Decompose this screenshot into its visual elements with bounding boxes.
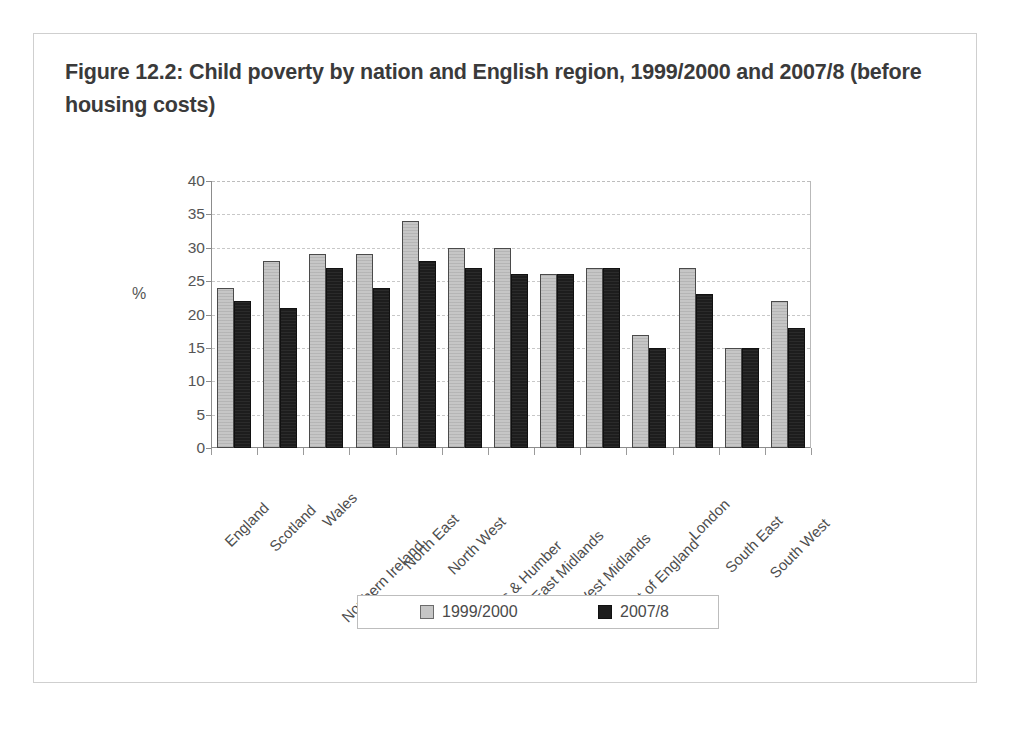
- bar-group: [494, 181, 528, 448]
- y-tick-label: 5: [165, 406, 205, 424]
- bar-series1: [309, 254, 326, 448]
- bar-group: [632, 181, 666, 448]
- y-tick-label: 25: [165, 272, 205, 290]
- bar-series2: [234, 301, 251, 448]
- bar-series2: [419, 261, 436, 448]
- bar-group: [586, 181, 620, 448]
- legend-swatch-icon: [420, 605, 434, 619]
- bar-series2: [511, 274, 528, 448]
- bar-group: [771, 181, 805, 448]
- bar-group: [402, 181, 436, 448]
- bar-group: [263, 181, 297, 448]
- bar-group: [309, 181, 343, 448]
- x-axis-tick-labels: EnglandScotlandWalesNorthern IrelandNort…: [34, 448, 978, 578]
- bar-chart: % 0510152025303540 EnglandScotlandWalesN…: [34, 34, 978, 684]
- y-tick-label: 10: [165, 372, 205, 390]
- bar-group: [356, 181, 390, 448]
- bar-series2: [326, 268, 343, 448]
- bars-layer: [211, 181, 811, 448]
- bar-series1: [402, 221, 419, 448]
- legend-item-series2[interactable]: 2007/8: [598, 603, 669, 621]
- bar-group: [725, 181, 759, 448]
- bar-group: [540, 181, 574, 448]
- bar-series2: [696, 294, 713, 448]
- y-tick-label: 20: [165, 306, 205, 324]
- bar-series1: [679, 268, 696, 448]
- y-tick-label: 15: [165, 339, 205, 357]
- bar-series2: [742, 348, 759, 448]
- bar-series1: [356, 254, 373, 448]
- y-tick-label: 40: [165, 172, 205, 190]
- legend-swatch-icon: [598, 605, 612, 619]
- bar-series1: [725, 348, 742, 448]
- y-axis-title: %: [132, 285, 146, 303]
- bar-series1: [632, 335, 649, 448]
- y-tick-label: 30: [165, 239, 205, 257]
- bar-series1: [540, 274, 557, 448]
- bar-group: [217, 181, 251, 448]
- bar-series2: [603, 268, 620, 448]
- bar-series2: [557, 274, 574, 448]
- bar-series2: [465, 268, 482, 448]
- y-axis-tick-labels: 0510152025303540: [163, 181, 205, 448]
- legend-label: 1999/2000: [442, 603, 518, 621]
- bar-group: [679, 181, 713, 448]
- bar-series1: [586, 268, 603, 448]
- chart-legend: 1999/20002007/8: [357, 595, 719, 629]
- x-tick-label: Scotland: [266, 501, 319, 554]
- bar-series1: [263, 261, 280, 448]
- bar-series2: [649, 348, 666, 448]
- bar-series2: [280, 308, 297, 448]
- bar-group: [448, 181, 482, 448]
- legend-item-series1[interactable]: 1999/2000: [420, 603, 518, 621]
- bar-series1: [217, 288, 234, 448]
- y-tick-label: 35: [165, 205, 205, 223]
- bar-series1: [448, 248, 465, 448]
- bar-series1: [771, 301, 788, 448]
- bar-series2: [373, 288, 390, 448]
- bar-series1: [494, 248, 511, 448]
- legend-label: 2007/8: [620, 603, 669, 621]
- bar-series2: [788, 328, 805, 448]
- figure-frame: Figure 12.2: Child poverty by nation and…: [33, 33, 977, 683]
